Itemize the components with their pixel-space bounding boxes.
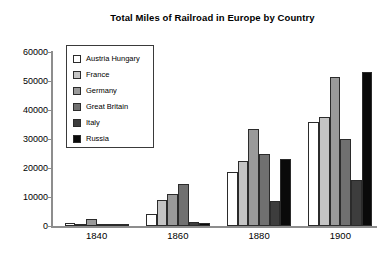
y-axis-tick-mark [47, 168, 51, 169]
bar [167, 194, 178, 226]
bar [238, 161, 249, 226]
bar [248, 129, 259, 226]
y-axis-tick-label: 50000 [0, 76, 48, 86]
y-axis-ticks: 0100002000030000400005000060000 [0, 0, 50, 261]
bar-group [308, 52, 372, 226]
chart-legend: Austria HungaryFranceGermanyGreat Britai… [66, 45, 154, 148]
y-axis-tick-mark [47, 52, 51, 53]
bar [178, 184, 189, 226]
y-axis-tick-mark [47, 110, 51, 111]
y-axis-tick-label: 10000 [0, 192, 48, 202]
bar [259, 154, 270, 227]
x-axis-label: 1840 [86, 230, 107, 241]
bar [75, 224, 86, 226]
legend-item-label: Great Britain [86, 103, 128, 111]
legend-swatch-icon [73, 55, 81, 63]
bar-group [146, 52, 210, 226]
bar [330, 77, 341, 226]
legend-item-label: Italy [86, 119, 100, 127]
bar-group [227, 52, 291, 226]
legend-item: Italy [73, 115, 153, 131]
bar [270, 201, 281, 226]
chart-title: Total Miles of Railroad in Europe by Cou… [0, 12, 385, 23]
x-axis-labels: 1840186018801900 [52, 230, 377, 250]
y-axis-tick-label: 30000 [0, 134, 48, 144]
bar [146, 214, 157, 226]
legend-swatch-icon [73, 135, 81, 143]
bar [227, 172, 238, 226]
legend-item-label: Germany [86, 87, 117, 95]
x-axis-line [51, 226, 377, 228]
bar [157, 200, 168, 226]
railroad-bar-chart: Total Miles of Railroad in Europe by Cou… [0, 0, 385, 261]
bar [86, 219, 97, 226]
bar [107, 224, 118, 226]
legend-item-label: Austria Hungary [86, 55, 140, 63]
legend-item-label: France [86, 71, 109, 79]
legend-item: Germany [73, 83, 153, 99]
bar [118, 224, 129, 226]
x-axis-label: 1880 [249, 230, 270, 241]
legend-item: Russia [73, 131, 153, 147]
x-axis-label: 1900 [330, 230, 351, 241]
y-axis-tick-label: 20000 [0, 163, 48, 173]
bar [351, 180, 362, 226]
y-axis-tick-mark [47, 197, 51, 198]
y-axis-tick-label: 60000 [0, 47, 48, 57]
bar [280, 159, 291, 226]
legend-swatch-icon [73, 71, 81, 79]
bar [199, 223, 210, 226]
legend-swatch-icon [73, 87, 81, 95]
legend-item-label: Russia [86, 135, 109, 143]
bar [189, 222, 200, 226]
legend-item: France [73, 67, 153, 83]
y-axis-tick-label: 0 [0, 221, 48, 231]
bar [308, 122, 319, 226]
bar [97, 224, 108, 226]
bar [362, 72, 373, 226]
legend-item: Austria Hungary [73, 51, 153, 67]
legend-swatch-icon [73, 103, 81, 111]
bar [340, 139, 351, 226]
x-axis-label: 1860 [167, 230, 188, 241]
legend-item: Great Britain [73, 99, 153, 115]
y-axis-tick-mark [47, 139, 51, 140]
bar [319, 117, 330, 226]
bar [65, 223, 76, 226]
y-axis-tick-mark [47, 81, 51, 82]
y-axis-tick-mark [47, 226, 51, 227]
legend-swatch-icon [73, 119, 81, 127]
y-axis-tick-label: 40000 [0, 105, 48, 115]
